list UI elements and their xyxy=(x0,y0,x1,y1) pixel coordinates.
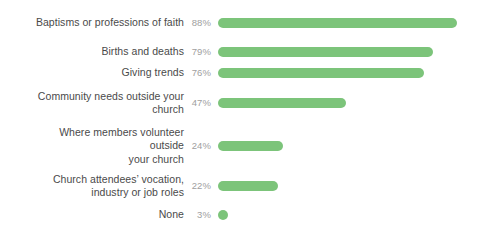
bar-value-label: 24% xyxy=(184,140,212,152)
bar-value-label: 22% xyxy=(184,180,212,192)
bar-track xyxy=(218,208,489,222)
bar-value-label: 88% xyxy=(184,17,212,29)
bar-value-label: 76% xyxy=(184,67,212,79)
bar-category-label: Births and deaths xyxy=(0,45,184,59)
bar-row: None3% xyxy=(0,200,489,230)
bar-row: Baptisms or professions of faith88% xyxy=(0,8,489,38)
bar-track xyxy=(218,96,489,110)
bar-row: Community needs outside your church47% xyxy=(0,88,489,118)
bar-fill xyxy=(218,47,433,57)
bar-value-label: 3% xyxy=(184,209,212,221)
bar-fill xyxy=(218,141,283,151)
bar-category-label: Community needs outside your church xyxy=(0,90,184,117)
bar-fill xyxy=(218,68,424,78)
bar-row: Giving trends76% xyxy=(0,58,489,88)
bar-category-label: Where members volunteer outside your chu… xyxy=(0,126,184,167)
bar-category-label: Church attendees’ vocation, industry or … xyxy=(0,173,184,200)
bar-track xyxy=(218,16,489,30)
bar-track xyxy=(218,45,489,59)
bar-row: Church attendees’ vocation, industry or … xyxy=(0,171,489,201)
bar-category-label: Giving trends xyxy=(0,66,184,80)
bar-fill xyxy=(218,210,228,220)
bar-track xyxy=(218,66,489,80)
bar-value-label: 79% xyxy=(184,46,212,58)
horizontal-bar-chart: Baptisms or professions of faith88%Birth… xyxy=(0,0,489,241)
bar-category-label: Baptisms or professions of faith xyxy=(0,16,184,30)
bar-fill xyxy=(218,98,346,108)
bar-track xyxy=(218,139,489,153)
bar-value-label: 47% xyxy=(184,97,212,109)
bar-fill xyxy=(218,18,457,28)
bar-row: Where members volunteer outside your chu… xyxy=(0,131,489,161)
bar-category-label: None xyxy=(0,208,184,222)
bar-track xyxy=(218,179,489,193)
bar-fill xyxy=(218,181,278,191)
